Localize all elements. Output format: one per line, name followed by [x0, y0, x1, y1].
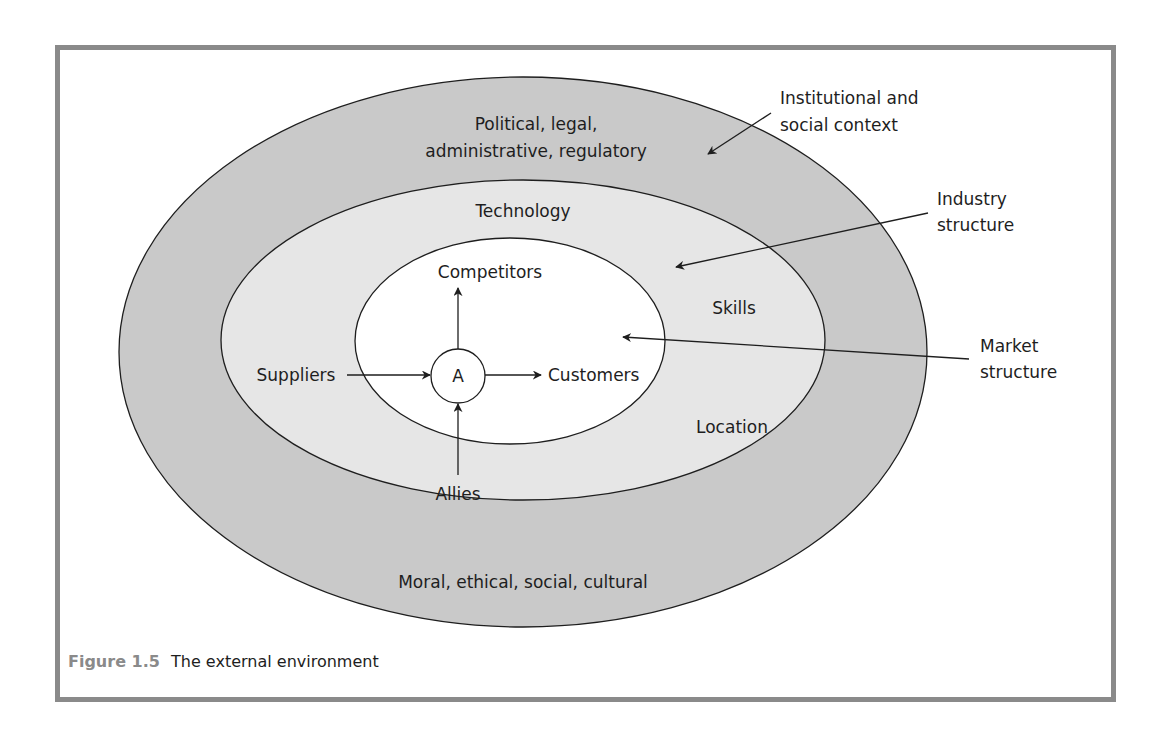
- callout-market-line1: Market: [980, 336, 1039, 356]
- outer-label-political-line2: administrative, regulatory: [425, 141, 647, 161]
- middle-label-skills: Skills: [712, 298, 756, 318]
- outer-label-moral: Moral, ethical, social, cultural: [398, 572, 648, 592]
- middle-label-location: Location: [696, 417, 768, 437]
- callout-market-line2: structure: [980, 362, 1057, 382]
- callout-institutional-line2: social context: [780, 115, 898, 135]
- figure-number: Figure 1.5: [68, 652, 160, 671]
- firm-a-label: A: [452, 366, 464, 386]
- allies-label: Allies: [435, 484, 480, 504]
- customers-label: Customers: [548, 365, 640, 385]
- outer-label-political-line1: Political, legal,: [475, 114, 598, 134]
- figure-caption: Figure 1.5 The external environment: [68, 652, 379, 671]
- callout-industry-line1: Industry: [937, 189, 1007, 209]
- figure-title: The external environment: [171, 652, 379, 671]
- callout-industry-line2: structure: [937, 215, 1014, 235]
- competitors-label: Competitors: [438, 262, 543, 282]
- suppliers-label: Suppliers: [257, 365, 336, 385]
- external-environment-diagram: Political, legal, administrative, regula…: [0, 0, 1171, 741]
- middle-label-technology: Technology: [474, 201, 570, 221]
- callout-institutional-line1: Institutional and: [780, 88, 919, 108]
